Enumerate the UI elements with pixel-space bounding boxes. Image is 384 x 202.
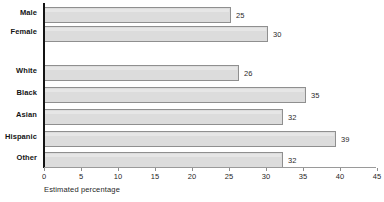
bar-asian[interactable] bbox=[44, 109, 283, 125]
x-tick bbox=[303, 168, 304, 171]
x-tick bbox=[44, 168, 45, 171]
x-tick-label: 5 bbox=[79, 172, 83, 181]
x-tick bbox=[377, 168, 378, 171]
bar-highlight bbox=[44, 9, 229, 12]
bar-female[interactable] bbox=[44, 26, 268, 42]
category-label-asian: Asian bbox=[16, 110, 37, 119]
x-tick bbox=[266, 168, 267, 171]
bar-value-label: 26 bbox=[244, 69, 253, 78]
x-tick-label: 25 bbox=[225, 172, 233, 181]
category-label-male: Male bbox=[20, 8, 37, 17]
bar-value-label: 30 bbox=[273, 30, 282, 39]
x-tick-label: 20 bbox=[188, 172, 196, 181]
bar-highlight bbox=[44, 133, 334, 136]
bar-black[interactable] bbox=[44, 87, 306, 103]
x-tick-label: 45 bbox=[373, 172, 381, 181]
x-tick-label: 35 bbox=[299, 172, 307, 181]
x-tick-label: 15 bbox=[151, 172, 159, 181]
x-tick bbox=[340, 168, 341, 171]
category-label-hispanic: Hispanic bbox=[5, 132, 37, 141]
x-axis-title: Estimated percentage bbox=[44, 185, 120, 194]
category-label-black: Black bbox=[16, 88, 37, 97]
x-axis-line bbox=[44, 167, 376, 168]
category-label-white: White bbox=[16, 66, 37, 75]
bar-male[interactable] bbox=[44, 7, 231, 23]
bar-white[interactable] bbox=[44, 65, 239, 81]
x-tick bbox=[155, 168, 156, 171]
x-tick-label: 40 bbox=[336, 172, 344, 181]
x-tick-label: 30 bbox=[262, 172, 270, 181]
bar-value-label: 35 bbox=[311, 91, 320, 100]
x-tick bbox=[118, 168, 119, 171]
x-tick-label: 10 bbox=[114, 172, 122, 181]
x-tick bbox=[229, 168, 230, 171]
x-tick-label: 0 bbox=[42, 172, 46, 181]
bar-value-label: 32 bbox=[288, 156, 297, 165]
category-label-other: Other bbox=[16, 153, 37, 162]
bar-highlight bbox=[44, 154, 281, 157]
bar-highlight bbox=[44, 89, 304, 92]
plot-area: 25 30 26 35 32 bbox=[44, 4, 377, 167]
bar-hispanic[interactable] bbox=[44, 131, 336, 147]
bar-value-label: 25 bbox=[236, 11, 245, 20]
bar-other[interactable] bbox=[44, 152, 283, 168]
bar-highlight bbox=[44, 111, 281, 114]
category-label-female: Female bbox=[11, 27, 37, 36]
bar-highlight bbox=[44, 28, 266, 31]
bar-highlight bbox=[44, 67, 237, 70]
x-tick bbox=[192, 168, 193, 171]
x-tick bbox=[81, 168, 82, 171]
y-axis-line bbox=[43, 3, 45, 168]
bar-value-label: 32 bbox=[288, 113, 297, 122]
bar-chart: 25 30 26 35 32 bbox=[0, 0, 384, 202]
bar-value-label: 39 bbox=[341, 135, 350, 144]
